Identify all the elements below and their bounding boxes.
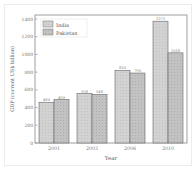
y-tick-label: 200 [24,123,33,128]
bar-pakistan-2006 [130,73,145,143]
bar-india-2003 [77,94,92,143]
y-tick-label: 400 [24,105,33,110]
x-axis-label: Year [104,155,118,161]
bar-chart: 0200400600800100012001400 46049055854882… [5,5,191,165]
legend-swatch-india [43,21,53,27]
x-tick-label: 2001 [48,146,60,151]
bar-value-label: 548 [96,90,104,94]
legend: India Pakistan [41,19,87,37]
chart-frame: 0200400600800100012001400 46049055854882… [4,4,192,166]
bar-value-label: 790 [134,69,142,73]
bar-india-2006 [115,70,130,143]
x-tick-label: 2006 [124,146,136,151]
legend-swatch-pakistan [43,29,53,35]
bar-pakistan-2003 [92,94,107,143]
y-tick-label: 1200 [22,34,34,39]
bar-value-label: 820 [119,66,127,70]
bar-value-label: 460 [43,98,51,102]
bar-value-label: 1018 [171,49,181,53]
bar-value-label: 1375 [156,17,166,21]
y-tick-label: 0 [30,141,33,146]
y-axis-label: GDP (current US$ billion) [9,46,15,112]
y-tick-label: 800 [24,70,33,75]
bar-india-2010 [153,21,168,143]
y-tick-label: 1000 [22,52,34,57]
y-tick-label: 600 [24,87,33,92]
bar-value-label: 558 [81,90,89,94]
bar-value-label: 490 [58,96,66,100]
bar-pakistan-2001 [54,100,69,143]
x-tick-label: 2003 [86,146,98,151]
bar-india-2001 [39,102,54,143]
x-tick-label: 2010 [162,146,174,151]
legend-label-india: India [56,22,69,28]
legend-label-pakistan: Pakistan [56,30,78,36]
y-tick-label: 1400 [22,17,34,22]
bar-pakistan-2010 [168,53,183,143]
